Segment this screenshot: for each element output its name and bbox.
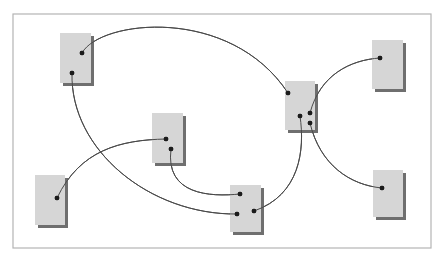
node-body[interactable]: [60, 33, 91, 83]
node-body[interactable]: [230, 185, 261, 232]
node-a[interactable]: [60, 33, 94, 86]
node-d[interactable]: [35, 175, 68, 228]
port-dot-overlay: [252, 209, 257, 214]
diagram-canvas: [0, 0, 441, 261]
port-dot-overlay: [80, 51, 85, 56]
node-body[interactable]: [372, 40, 403, 89]
port-dot-overlay: [380, 186, 385, 191]
port-dot-overlay: [55, 196, 60, 201]
port-dot-overlay: [308, 111, 313, 116]
port-dot-overlay: [169, 147, 174, 152]
node-e[interactable]: [230, 185, 264, 235]
node-f[interactable]: [372, 40, 406, 92]
port-dot-overlay: [70, 71, 75, 76]
port-dot-overlay: [286, 91, 291, 96]
port-dot-overlay: [308, 121, 313, 126]
node-body[interactable]: [373, 170, 403, 217]
port-dot-overlay: [238, 192, 243, 197]
port-dot-overlay: [164, 137, 169, 142]
port-dot-overlay: [378, 56, 383, 61]
node-g[interactable]: [373, 170, 406, 220]
port-dot-overlay: [298, 114, 303, 119]
node-body[interactable]: [35, 175, 65, 225]
port-dot-overlay: [235, 212, 240, 217]
node-graph-diagram: [0, 0, 441, 261]
